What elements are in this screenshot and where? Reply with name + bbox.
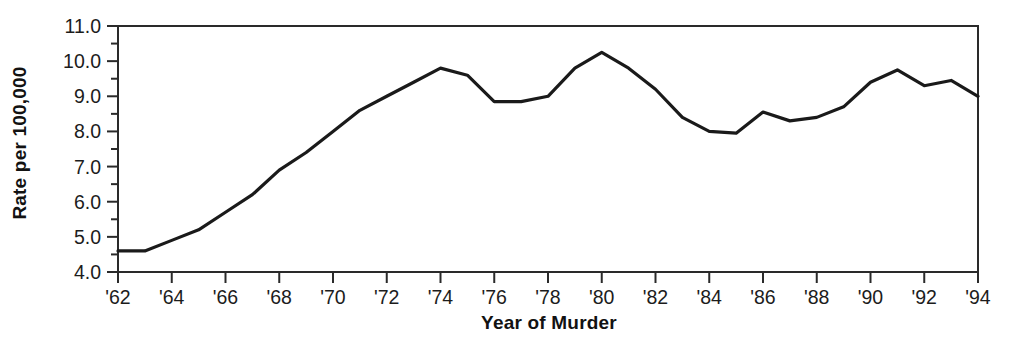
x-tick-label: '80	[589, 286, 615, 308]
x-tick-label: '86	[750, 286, 775, 308]
x-axis-ticks	[118, 272, 978, 283]
x-tick-label: '68	[267, 286, 292, 308]
y-tick-label: 4.0	[74, 261, 101, 283]
y-tick-label: 6.0	[74, 191, 101, 213]
y-tick-label: 7.0	[74, 156, 101, 178]
x-tick-label: '72	[374, 286, 399, 308]
x-tick-label: '74	[428, 286, 454, 308]
y-tick-label: 8.0	[74, 120, 101, 142]
y-tick-label: 9.0	[74, 85, 101, 107]
murder-rate-line-chart: Rate per 100,000 Year of Murder 4.05.06.…	[0, 0, 1015, 352]
y-tick-label: 10.0	[63, 50, 101, 72]
x-tick-label: '84	[697, 286, 723, 308]
x-tick-label: '64	[159, 286, 185, 308]
x-tick-label: '66	[213, 286, 238, 308]
x-tick-label: '92	[912, 286, 937, 308]
data-series-murder-rate	[118, 52, 978, 251]
y-axis-minor-ticks	[111, 44, 118, 255]
y-axis-tick-labels: 4.05.06.07.08.09.010.011.0	[63, 15, 101, 283]
y-tick-label: 11.0	[64, 15, 101, 37]
series-line-murder-rate	[118, 52, 978, 251]
x-tick-label: '70	[320, 286, 346, 308]
plot-area: 4.05.06.07.08.09.010.011.0 '62'64'66'68'…	[0, 0, 1015, 352]
x-tick-label: '90	[858, 286, 884, 308]
plot-frame	[118, 26, 978, 272]
x-tick-label: '94	[965, 286, 991, 308]
x-tick-label: '78	[535, 286, 560, 308]
x-tick-label: '62	[105, 286, 130, 308]
x-axis-tick-labels: '62'64'66'68'70'72'74'76'78'80'82'84'86'…	[105, 286, 991, 308]
y-tick-label: 5.0	[74, 226, 101, 248]
x-tick-label: '88	[804, 286, 829, 308]
x-tick-label: '82	[643, 286, 668, 308]
x-tick-label: '76	[482, 286, 507, 308]
